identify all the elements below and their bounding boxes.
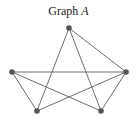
edge-right-bottom-left [37, 72, 126, 111]
edge-left-bottom-right [12, 72, 101, 111]
graph-diagram [0, 0, 137, 124]
vertex-top [66, 25, 72, 31]
vertex-right [123, 69, 129, 75]
vertex-left [9, 69, 15, 75]
vertex-bottom-right [98, 108, 104, 114]
vertices-group [9, 25, 129, 114]
edges-group [12, 28, 126, 111]
vertex-bottom-left [34, 108, 40, 114]
